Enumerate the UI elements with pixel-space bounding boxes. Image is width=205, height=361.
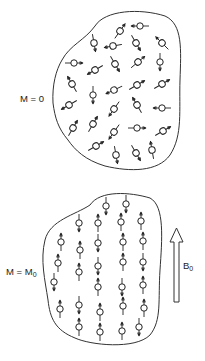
- label-m-zero: M = 0: [20, 93, 44, 104]
- spin-icon: [85, 63, 104, 78]
- spin-icon: [153, 105, 172, 111]
- spin-icon: [140, 232, 146, 251]
- spin-icon: [118, 213, 124, 232]
- spin-icon: [76, 318, 82, 337]
- spin-icon: [95, 278, 101, 297]
- spin-icon: [136, 318, 142, 337]
- spin-icon: [112, 21, 128, 40]
- spin-icon: [141, 299, 147, 318]
- spin-icon: [140, 276, 146, 295]
- spins-aligned-group: [51, 195, 147, 341]
- spin-icon: [120, 297, 126, 316]
- spin-icon: [120, 233, 126, 252]
- spin-icon: [77, 241, 83, 260]
- spin-icon: [140, 253, 146, 272]
- spin-icon: [119, 278, 125, 297]
- spin-icon: [95, 234, 101, 253]
- nmr-spin-diagram: M = 0 M = M0 B0: [0, 0, 205, 361]
- label-m-m0: M = M0: [6, 266, 37, 278]
- spin-icon: [157, 53, 163, 72]
- spin-icon: [89, 34, 99, 53]
- spin-icon: [76, 214, 82, 233]
- diagram-canvas: [0, 0, 205, 361]
- spin-icon: [106, 100, 122, 119]
- spin-icon: [95, 257, 101, 276]
- spin-icon: [59, 98, 78, 113]
- spin-icon: [138, 212, 144, 231]
- spin-icon: [90, 86, 96, 105]
- spin-icon: [57, 300, 63, 319]
- spin-icon: [76, 263, 82, 282]
- spin-icon: [129, 34, 144, 53]
- spin-icon: [95, 214, 101, 233]
- label-b0: B0: [183, 260, 193, 272]
- spin-icon: [147, 140, 157, 159]
- spin-icon: [131, 23, 150, 29]
- spin-icon: [120, 253, 126, 272]
- spin-icon: [103, 41, 122, 51]
- spin-icon: [119, 322, 125, 341]
- spin-icon: [65, 60, 84, 66]
- spin-icon: [103, 197, 109, 216]
- spin-icon: [128, 77, 147, 92]
- spin-icon: [104, 83, 123, 97]
- spin-icon: [129, 144, 144, 163]
- spin-icon: [97, 323, 103, 342]
- spin-icon: [154, 123, 173, 138]
- spin-icon: [108, 55, 123, 74]
- spin-icon: [128, 125, 147, 131]
- spin-icon: [64, 74, 79, 93]
- spin-icon: [111, 146, 121, 165]
- spin-icon: [123, 195, 129, 214]
- spin-icon: [97, 303, 103, 322]
- spin-icon: [129, 95, 144, 114]
- b0-field-arrow: [170, 228, 183, 302]
- spin-icon: [76, 296, 82, 315]
- spin-icon: [153, 34, 171, 52]
- spin-icon: [86, 114, 101, 133]
- spin-icon: [58, 233, 64, 252]
- spin-icon: [66, 118, 81, 137]
- spin-icon: [87, 138, 106, 153]
- spin-icon: [51, 273, 57, 292]
- spin-icon: [153, 76, 172, 91]
- spin-icon: [106, 123, 122, 142]
- spin-icon: [129, 53, 147, 70]
- spins-random-group: [59, 21, 173, 165]
- spin-icon: [55, 254, 61, 273]
